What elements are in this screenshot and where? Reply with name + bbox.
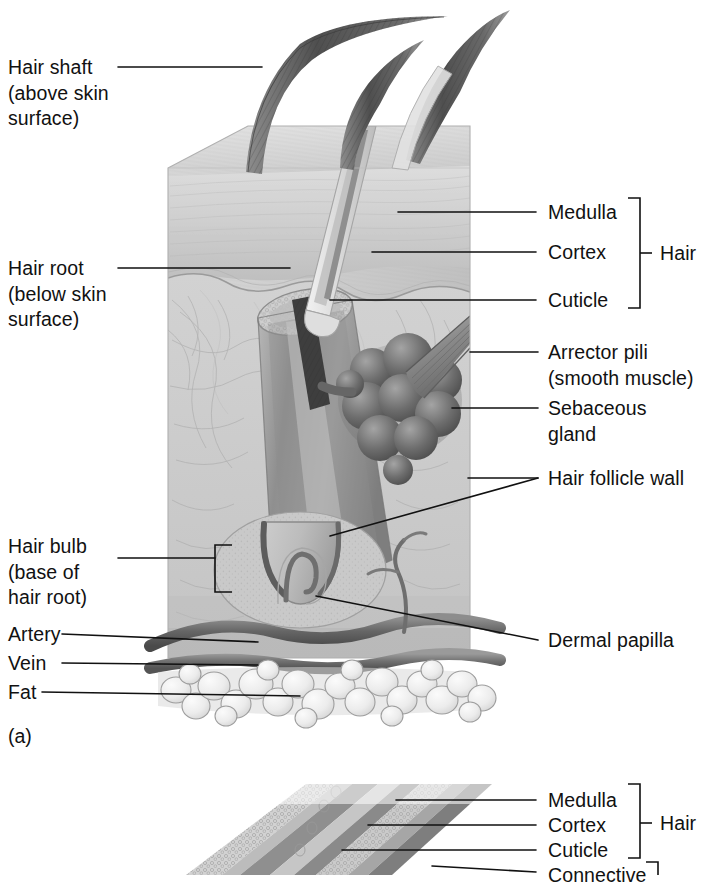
panel-a-caption: (a): [8, 725, 32, 748]
label-hair-bulb: Hair bulb (base of hair root): [8, 534, 87, 611]
connective-group-bracket-panel-b: [646, 862, 658, 875]
label-arrector-pili: Arrector pili (smooth muscle): [548, 340, 694, 391]
leader-connective-b: [432, 866, 536, 872]
label-cuticle-panel-b: Cuticle: [548, 838, 608, 864]
hair-group-bracket-panel-b: [628, 784, 652, 858]
label-hair-root: Hair root (below skin surface): [8, 256, 107, 333]
label-fat: Fat: [8, 680, 36, 706]
label-medulla-panel-b: Medulla: [548, 788, 617, 814]
hair-bulb: [214, 512, 386, 628]
label-cortex: Cortex: [548, 240, 606, 266]
bracket-label-hair-panel-b: Hair: [660, 811, 696, 837]
panel-b-illustration: [170, 782, 510, 875]
label-dermal-papilla: Dermal papilla: [548, 628, 674, 654]
label-cuticle: Cuticle: [548, 288, 608, 314]
label-hair-follicle-wall: Hair follicle wall: [548, 466, 684, 492]
label-vein: Vein: [8, 651, 46, 677]
skin-block: [168, 126, 470, 658]
hair-group-bracket-panel-a: [628, 198, 652, 308]
bracket-label-hair-panel-a: Hair: [660, 241, 696, 267]
label-hair-shaft: Hair shaft (above skin surface): [8, 55, 109, 132]
label-sebaceous-gland: Sebaceous gland: [548, 396, 646, 447]
label-connective-panel-b: Connective: [548, 863, 647, 886]
label-cortex-panel-b: Cortex: [548, 813, 606, 839]
label-medulla: Medulla: [548, 200, 617, 226]
label-artery: Artery: [8, 622, 61, 648]
